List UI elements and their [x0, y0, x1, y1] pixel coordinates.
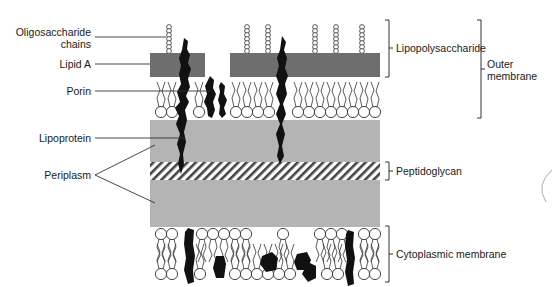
label-lipoprotein: Lipoprotein	[5, 132, 91, 144]
label-oligosaccharide-chains: Oligosaccharide chains	[5, 26, 91, 50]
porin-2	[218, 82, 227, 118]
label-porin: Porin	[5, 85, 91, 97]
label-outer-membrane: Outer membrane	[487, 58, 537, 82]
label-cytoplasmic-membrane: Cytoplasmic membrane	[396, 248, 506, 260]
label-oligosaccharide-line1: Oligosaccharide	[5, 26, 91, 38]
brackets	[385, 20, 485, 282]
porin-1	[204, 76, 216, 118]
decorative-arc	[542, 170, 552, 202]
label-outer-membrane-line2: membrane	[487, 70, 537, 82]
label-periplasm: Periplasm	[5, 169, 91, 181]
peptidoglycan-layer	[150, 162, 380, 180]
lipid-a-block-left	[150, 53, 205, 77]
label-oligosaccharide-line2: chains	[5, 38, 91, 50]
label-outer-membrane-line1: Outer	[487, 58, 537, 70]
oligosaccharide-chains	[167, 25, 365, 54]
lipid-a-block-right	[230, 53, 380, 77]
label-lipid-a: Lipid A	[5, 58, 91, 70]
periplasm-lower	[150, 180, 380, 227]
label-peptidoglycan: Peptidoglycan	[396, 165, 462, 177]
label-lipopolysaccharide: Lipopolysaccharide	[396, 42, 486, 54]
